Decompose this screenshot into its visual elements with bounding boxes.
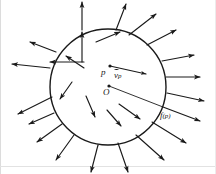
image-point-label: f(p) (160, 111, 171, 120)
field-arrow (56, 135, 74, 160)
field-arrow (167, 93, 204, 101)
point-marker-p (108, 64, 111, 67)
origin-label: O (103, 88, 110, 97)
vector-v-glyph: v (114, 71, 118, 80)
vector-v-letter: v (114, 70, 118, 80)
vector-subscript-p: p (118, 72, 122, 80)
field-arrow (147, 30, 176, 45)
field-arrow (86, 96, 95, 117)
radius-line-to-image-point (109, 86, 163, 107)
field-arrow (107, 110, 121, 126)
field-arrow (30, 42, 56, 52)
tangent-vector-label: v p (114, 71, 122, 80)
field-arrow (152, 122, 186, 143)
vector-overbar-icon (114, 69, 119, 70)
field-arrow (60, 82, 72, 99)
field-arrow (37, 124, 62, 142)
field-arrow (129, 14, 156, 35)
field-arrow (116, 4, 126, 30)
field-arrow (119, 104, 140, 119)
marked-points-group (107, 64, 111, 87)
field-arrow (29, 113, 54, 124)
field-arrow (96, 32, 120, 42)
point-p-label: p (101, 68, 106, 77)
field-arrow (162, 55, 194, 61)
vector-field-figure: p v p O f(p) (0, 0, 216, 174)
field-arrow (136, 135, 164, 160)
field-arrow (91, 145, 98, 172)
field-arrow (118, 143, 128, 172)
field-arrow (12, 64, 50, 68)
paren-close: ) (168, 112, 170, 120)
interior-arrow-group (50, 32, 140, 126)
field-arrow (18, 97, 52, 114)
